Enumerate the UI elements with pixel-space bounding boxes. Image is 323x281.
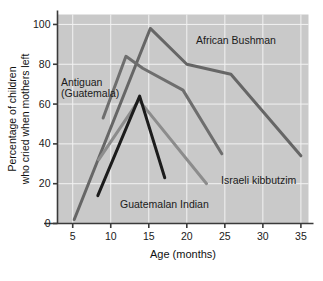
x-axis-label: Age (months)	[150, 248, 216, 260]
y-axis-label-line1: Percentage of children	[6, 66, 18, 171]
y-tick-label: 80	[39, 58, 51, 70]
y-tick-label: 40	[39, 137, 51, 149]
line-chart: 0204060801005101520253035Age (months)Per…	[0, 0, 323, 281]
x-tick-label: 5	[70, 230, 76, 242]
x-tick-label: 20	[181, 230, 193, 242]
y-tick-label: 100	[33, 18, 51, 30]
figure-container: 0204060801005101520253035Age (months)Per…	[0, 0, 323, 281]
x-tick-label: 15	[143, 230, 155, 242]
annotation-guatemala: (Guatemala)	[61, 87, 119, 99]
x-tick-label: 30	[257, 230, 269, 242]
y-axis-label-line2: who cried when mothers left	[19, 54, 31, 186]
x-tick-label: 35	[295, 230, 307, 242]
x-tick-label: 10	[105, 230, 117, 242]
annotation-african-bushman: African Bushman	[196, 34, 276, 46]
y-tick-label: 20	[39, 177, 51, 189]
y-tick-label: 0	[45, 217, 51, 229]
annotation-guatemalan-indian: Guatemalan Indian	[120, 198, 209, 210]
y-tick-label: 60	[39, 98, 51, 110]
x-tick-label: 25	[219, 230, 231, 242]
annotation-israeli-kibbutzim: Israeli kibbutzim	[221, 174, 297, 186]
